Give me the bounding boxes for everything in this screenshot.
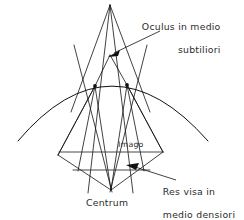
label-imago: Imago bbox=[118, 139, 144, 151]
diamond-edge-lower-left bbox=[58, 155, 111, 190]
label-res-visa-line1: Res visa in bbox=[163, 186, 215, 197]
node-left-marker bbox=[93, 84, 97, 88]
label-oculus-line1: Oculus in medio bbox=[142, 21, 221, 32]
label-centrum: Centrum bbox=[86, 197, 128, 209]
label-oculus: Oculus in medio subtiliori bbox=[129, 9, 221, 78]
label-res-visa: Res visa in medio densiori bbox=[150, 174, 235, 220]
ray-eye-to-node-left bbox=[95, 55, 110, 86]
ray-eye-to-node-right bbox=[110, 55, 127, 85]
label-oculus-line2: subtiliori bbox=[129, 44, 221, 56]
ray-apex-cross-left bbox=[71, 5, 110, 112]
label-res-visa-line2: medio densiori bbox=[163, 209, 235, 220]
ray-apex-to-left-lower bbox=[88, 5, 110, 193]
refracted-ray-right-to-centrum bbox=[111, 85, 127, 190]
medium-boundary-arc bbox=[18, 86, 208, 141]
figure-root: Oculus in medio subtiliori Res visa in m… bbox=[0, 0, 244, 220]
node-right-marker bbox=[125, 83, 129, 87]
res-visa-leader-arrowhead bbox=[126, 163, 139, 170]
refracted-ray-right-inner bbox=[127, 85, 144, 171]
refracted-ray-left-to-centrum bbox=[95, 86, 111, 190]
